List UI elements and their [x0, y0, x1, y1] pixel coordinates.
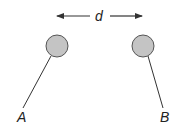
sphere-b-label: B [160, 109, 169, 125]
sphere-b [132, 35, 154, 57]
distance-label: d [95, 8, 104, 24]
sphere-a-label: A [16, 109, 26, 125]
sphere-a-group: A [16, 35, 68, 125]
distance-indicator: d [57, 8, 142, 24]
string-b [148, 56, 163, 108]
sphere-a [46, 35, 68, 57]
string-a [23, 56, 51, 108]
two-spheres-diagram: d A B [0, 0, 178, 132]
sphere-b-group: B [132, 35, 169, 125]
